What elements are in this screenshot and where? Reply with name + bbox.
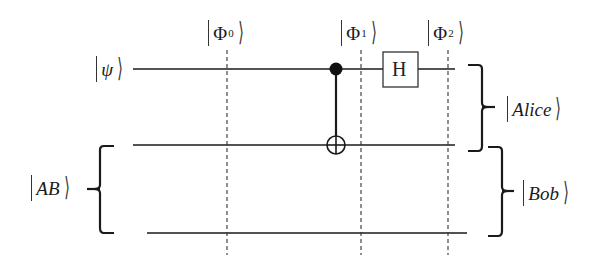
ket-bar — [341, 20, 342, 46]
state-label-phi0: Φ0 ⟩ — [208, 20, 246, 46]
ket-angle: ⟩ — [556, 96, 562, 122]
input-ket-psi: ψ ⟩ — [96, 56, 125, 82]
ket-angle: ⟩ — [458, 20, 464, 46]
ket-angle: ⟩ — [371, 20, 377, 46]
ket-bar — [208, 20, 209, 46]
state-label-phi2: Φ2 ⟩ — [428, 20, 466, 46]
ket-angle: ⟩ — [64, 175, 70, 201]
ket-angle: ⟩ — [238, 20, 244, 46]
ket-angle: ⟩ — [563, 180, 569, 206]
phi0-symbol: Φ — [213, 24, 227, 43]
ket-bar — [31, 175, 32, 201]
phi2-symbol: Φ — [433, 24, 447, 43]
hadamard-gate-label: H — [392, 58, 406, 81]
ket-bar — [507, 96, 508, 122]
input-ket-ab: AB ⟩ — [31, 175, 72, 201]
ket-psi-symbol: ψ — [101, 60, 113, 79]
phi1-symbol: Φ — [346, 24, 360, 43]
phi1-subscript: 1 — [361, 28, 367, 39]
output-ket-alice: Alice ⟩ — [507, 96, 563, 122]
state-label-phi1: Φ1 ⟩ — [341, 20, 379, 46]
phi2-subscript: 2 — [448, 28, 454, 39]
phi0-subscript: 0 — [228, 28, 234, 39]
ket-ab-symbol: AB — [36, 179, 59, 198]
circuit-canvas — [0, 0, 599, 263]
alice-label: Alice — [512, 100, 551, 119]
bob-label: Bob — [528, 184, 559, 203]
ket-bar — [96, 56, 97, 82]
cnot-control-dot — [330, 63, 343, 76]
ket-bar — [428, 20, 429, 46]
output-ket-bob: Bob ⟩ — [523, 180, 571, 206]
ket-bar — [523, 180, 524, 206]
ket-angle: ⟩ — [117, 56, 123, 82]
